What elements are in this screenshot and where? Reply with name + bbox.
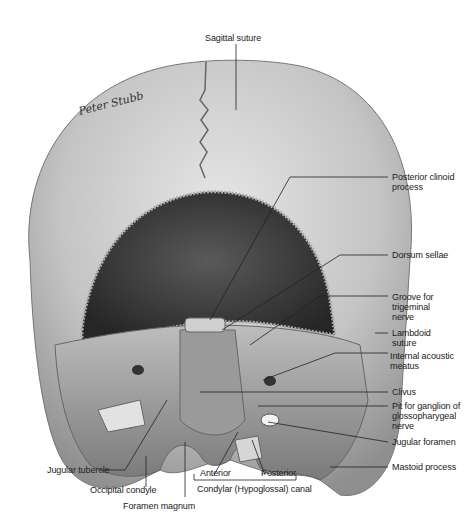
label-jugular-foramen: Jugular foramen [392, 437, 456, 447]
label-mastoid-process: Mastoid process [392, 462, 456, 472]
label-clivus: Clivus [392, 387, 416, 397]
label-posterior-clinoid-process: Posterior clinoid process [392, 172, 454, 192]
jugular-foramen-right [261, 414, 279, 426]
label-occipital-condyle: Occipital condyle [90, 485, 156, 495]
label-posterior: Posterior [261, 468, 296, 478]
label-lambdoid-suture: Lambdoid suture [392, 328, 431, 348]
clivus-shape [180, 330, 245, 435]
label-pit-ganglion: Pit for ganglion of glossopharygeal nerv… [392, 401, 460, 431]
label-internal-acoustic-meatus: Internal acoustic meatus [390, 351, 454, 371]
label-sagittal-suture: Sagittal suture [205, 33, 261, 43]
skull-illustration [0, 0, 467, 531]
label-condylar-canal: Condylar (Hypoglossal) canal [197, 484, 312, 494]
label-jugular-tubercle: Jugular tubercle [47, 465, 109, 475]
label-dorsum-sellae: Dorsum sellae [392, 250, 448, 260]
label-anterior: Anterior [200, 468, 231, 478]
label-foramen-magnum: Foramen magnum [123, 501, 195, 511]
label-groove-trigeminal: Groove for trigeminal nerve [392, 292, 434, 322]
